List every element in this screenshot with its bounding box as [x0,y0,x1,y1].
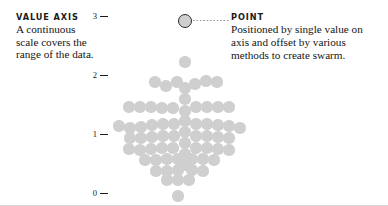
swarm-point [212,119,223,130]
swarm-point [211,76,222,87]
swarm-point [172,174,183,185]
beeswarm-annotated-diagram: VALUE AXIS A continuous scale covers the… [0,0,388,206]
swarm-point [179,56,190,67]
swarm-point [113,120,124,131]
swarm-point [157,118,168,129]
swarm-point [123,143,134,154]
swarm-point [167,102,178,113]
swarm-point [156,102,167,113]
swarm-point [134,101,145,112]
swarm-point [201,118,212,129]
swarm-point [197,153,208,164]
swarm-point [161,153,172,164]
swarm-point [189,78,200,89]
swarm-point [179,126,190,137]
swarm-point [179,137,190,148]
highlighted-point [178,14,192,28]
swarm-point [223,132,234,143]
swarm-point [212,101,223,112]
swarm-point [190,130,201,141]
swarm-point [157,130,168,141]
swarm-point [139,154,150,165]
swarm-point [146,119,157,130]
swarm-points [0,0,388,206]
swarm-point [208,154,219,165]
swarm-point [201,142,212,153]
swarm-point [223,144,234,155]
swarm-point [172,190,183,201]
swarm-point [135,132,146,143]
swarm-point [200,75,211,86]
swarm-point [150,165,161,176]
swarm-point [160,80,171,91]
swarm-point [179,115,190,126]
swarm-point [190,101,201,112]
swarm-point [212,131,223,142]
swarm-point [190,118,201,129]
swarm-point [161,174,172,185]
swarm-point [234,122,245,133]
swarm-point [150,154,161,165]
swarm-point [179,93,190,104]
swarm-point [123,101,134,112]
swarm-point [212,143,223,154]
swarm-point [145,143,156,154]
swarm-point [124,132,135,143]
swarm-point [201,130,212,141]
swarm-point [197,165,208,176]
swarm-point [167,142,178,153]
swarm-point [190,142,201,153]
swarm-point [168,118,179,129]
swarm-point [145,101,156,112]
swarm-point [168,130,179,141]
swarm-point [156,142,167,153]
swarm-point [183,174,194,185]
swarm-point [201,101,212,112]
swarm-point [223,101,234,112]
swarm-point [223,120,234,131]
swarm-point [146,131,157,142]
swarm-point [135,121,146,132]
swarm-point [149,76,160,87]
